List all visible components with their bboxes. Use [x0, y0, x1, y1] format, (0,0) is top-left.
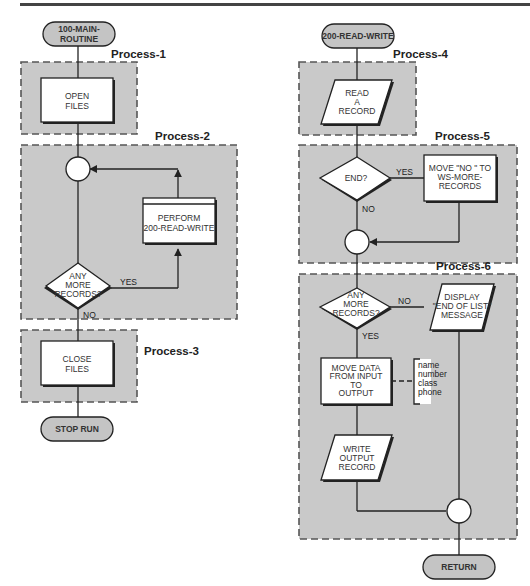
svg-text:RECORDS: RECORDS	[439, 181, 482, 191]
svg-text:RECORDS?: RECORDS?	[332, 308, 380, 318]
process-close-files: CLOSE FILES	[41, 341, 115, 387]
svg-text:phone: phone	[418, 387, 442, 397]
svg-text:OPEN: OPEN	[65, 91, 89, 101]
connector-circle-process-6	[447, 499, 471, 523]
svg-text:END?: END?	[345, 173, 368, 183]
svg-text:FILES: FILES	[65, 101, 89, 111]
process-open-files: OPEN FILES	[41, 78, 115, 124]
top-rule	[20, 3, 530, 6]
region-label-process-2: Process-2	[155, 130, 210, 142]
svg-text:PERFORM: PERFORM	[158, 213, 201, 223]
region-label-process-4: Process-4	[393, 48, 449, 60]
svg-text:RECORD: RECORD	[339, 462, 376, 472]
flowchart-diagram: Process-1 Process-2 Process-3 100-MAIN- …	[0, 0, 530, 586]
svg-text:RECORDS?: RECORDS?	[54, 289, 102, 299]
terminal-return: RETURN	[423, 555, 495, 579]
region-label-process-1: Process-1	[111, 48, 167, 60]
svg-text:CLOSE: CLOSE	[63, 354, 92, 364]
svg-text:100-MAIN-: 100-MAIN-	[58, 24, 100, 34]
svg-text:200-READ-WRITE: 200-READ-WRITE	[144, 223, 215, 233]
terminal-100-main-routine: 100-MAIN- ROUTINE	[43, 22, 115, 46]
svg-text:STOP RUN: STOP RUN	[55, 424, 99, 434]
edge-label-end-no: NO	[362, 204, 375, 214]
process-move-no: MOVE "NO " TO WS-MORE- RECORDS	[424, 155, 498, 203]
process-move-data: MOVE DATA FROM INPUT TO OUTPUT	[321, 358, 393, 406]
edge-label-more-no: NO	[398, 296, 411, 306]
edge-label-more-yes: YES	[362, 331, 379, 341]
predefined-process-perform: PERFORM 200-READ-WRITE	[143, 198, 217, 245]
svg-text:MESSAGE: MESSAGE	[441, 310, 483, 320]
svg-text:RETURN: RETURN	[441, 562, 476, 572]
svg-text:RECORD: RECORD	[339, 106, 376, 116]
connector-circle	[66, 157, 90, 181]
svg-text:FILES: FILES	[65, 364, 89, 374]
svg-text:ROUTINE: ROUTINE	[60, 34, 99, 44]
terminal-200-read-write: 200-READ-WRITE	[322, 24, 394, 48]
right-flow: Process-4 Process-5 Process-6 200-READ-W…	[299, 24, 517, 579]
connector-circle-process-5	[345, 230, 369, 254]
region-label-process-5: Process-5	[435, 130, 491, 142]
left-flow: Process-1 Process-2 Process-3 100-MAIN- …	[21, 22, 237, 441]
edge-label-no: NO	[83, 310, 96, 320]
region-label-process-3: Process-3	[144, 345, 199, 357]
region-label-process-6: Process-6	[436, 260, 491, 272]
svg-text:OUTPUT: OUTPUT	[339, 388, 374, 398]
edge-label-end-yes: YES	[396, 167, 413, 177]
svg-text:200-READ-WRITE: 200-READ-WRITE	[322, 31, 394, 41]
terminal-stop-run: STOP RUN	[41, 417, 113, 441]
edge-label-yes: YES	[120, 277, 137, 287]
